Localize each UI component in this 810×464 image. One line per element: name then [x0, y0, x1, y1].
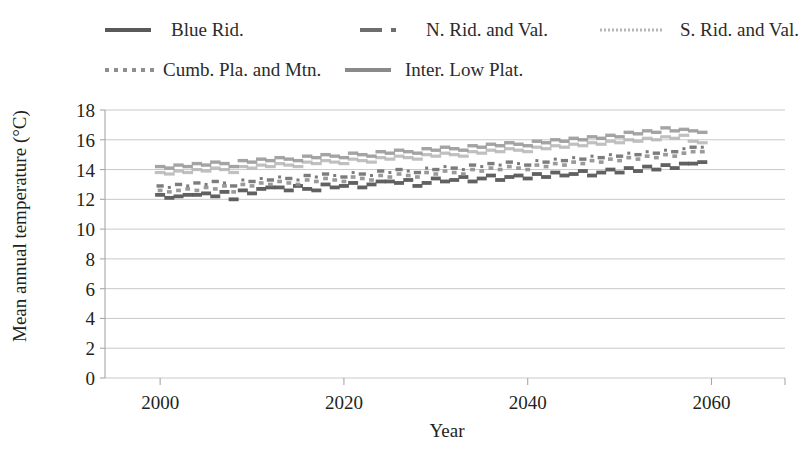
data-point — [304, 174, 311, 177]
data-point — [219, 168, 230, 171]
data-point — [256, 187, 266, 191]
data-point — [286, 181, 291, 185]
data-point — [378, 174, 383, 178]
data-point — [164, 166, 174, 169]
data-point — [580, 162, 585, 166]
y-tick-labels: 024681012141618 — [76, 100, 96, 389]
data-point — [332, 178, 337, 182]
data-point — [191, 168, 202, 171]
data-point — [449, 178, 459, 182]
data-point — [697, 131, 707, 134]
data-point — [256, 157, 266, 160]
data-point — [525, 168, 530, 172]
data-point — [265, 159, 275, 162]
y-tick-label: 10 — [76, 219, 95, 240]
data-point — [320, 159, 331, 162]
data-point — [470, 168, 475, 172]
data-point — [642, 137, 653, 140]
data-point — [590, 159, 595, 163]
data-point — [660, 135, 671, 138]
data-point — [617, 159, 622, 163]
data-point — [223, 181, 226, 184]
y-axis-title: Mean annual temperature (°C) — [9, 110, 31, 342]
x-tick-label: 2060 — [692, 392, 730, 413]
data-point — [664, 149, 667, 152]
data-point — [322, 172, 329, 175]
data-point — [679, 162, 689, 166]
data-point — [155, 165, 165, 168]
data-point — [614, 141, 625, 144]
data-point — [185, 187, 190, 191]
legend-item-cumb-pla-mtn[interactable]: Cumb. Pla. and Mtn. — [105, 60, 345, 79]
data-point — [311, 189, 321, 193]
data-point — [461, 172, 466, 176]
data-point — [477, 177, 487, 181]
data-point — [248, 180, 255, 183]
data-point — [451, 166, 458, 169]
data-point — [458, 155, 469, 158]
data-point — [256, 163, 267, 166]
data-point — [204, 186, 209, 190]
data-point — [554, 158, 557, 161]
data-series-layer — [155, 126, 708, 201]
data-point — [315, 176, 318, 179]
data-point — [646, 150, 649, 153]
data-point — [302, 187, 312, 191]
data-point — [268, 183, 273, 187]
data-point — [357, 186, 367, 190]
data-point — [669, 137, 680, 140]
y-tick-label: 0 — [86, 368, 96, 389]
data-point — [275, 186, 285, 190]
data-point — [651, 138, 662, 141]
data-point — [489, 166, 494, 170]
data-point — [357, 153, 367, 156]
data-point — [164, 196, 174, 200]
data-point — [385, 151, 395, 154]
data-point — [633, 132, 643, 135]
data-point — [329, 161, 340, 164]
data-point — [229, 197, 239, 201]
y-tick-label: 8 — [86, 249, 96, 270]
data-point — [605, 168, 615, 172]
data-point — [688, 140, 699, 143]
data-point — [690, 146, 697, 149]
chart-figure: Blue Rid. N. Rid. and Val. S. Rid. and V… — [0, 0, 810, 464]
legend-item-inter-low-plat[interactable]: Inter. Low Plat. — [345, 60, 523, 79]
data-point — [186, 184, 189, 187]
data-point — [385, 180, 395, 184]
data-point — [422, 181, 432, 185]
data-point — [431, 177, 441, 181]
data-point — [495, 150, 506, 153]
data-point — [412, 158, 423, 161]
data-point — [615, 171, 625, 175]
data-point — [609, 153, 612, 156]
legend-item-s-rid-val[interactable]: S. Rid. and Val. — [600, 20, 799, 39]
legend-item-blue-rid[interactable]: Blue Rid. — [105, 20, 360, 39]
data-point — [158, 189, 163, 193]
data-point — [504, 141, 514, 144]
data-point — [587, 174, 597, 178]
data-point — [523, 144, 533, 147]
data-point — [701, 146, 704, 149]
data-point — [366, 154, 376, 157]
data-point — [522, 150, 533, 153]
legend-item-n-rid-val[interactable]: N. Rid. and Val. — [360, 20, 600, 39]
data-point — [578, 138, 588, 141]
data-point — [524, 163, 531, 166]
data-point — [598, 156, 605, 159]
legend-label-inter-low-plat: Inter. Low Plat. — [405, 60, 523, 79]
data-point — [293, 165, 304, 168]
data-point — [167, 190, 172, 194]
data-point — [219, 162, 229, 165]
data-point — [370, 174, 373, 177]
data-point — [311, 162, 322, 165]
data-point — [219, 190, 229, 194]
data-point — [237, 165, 248, 168]
data-point — [348, 181, 358, 185]
data-point — [542, 160, 549, 163]
data-point — [449, 153, 460, 156]
data-point — [387, 175, 392, 179]
data-point — [559, 146, 570, 149]
data-point — [403, 156, 414, 159]
data-point — [568, 143, 579, 146]
